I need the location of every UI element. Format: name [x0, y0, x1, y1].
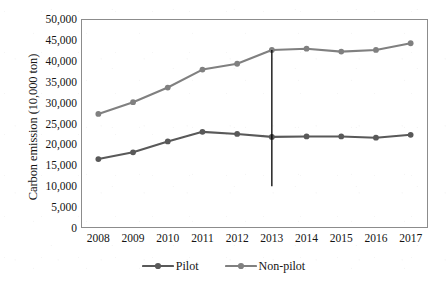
- data-point: [304, 46, 310, 52]
- y-axis-tick-labels: 05,00010,00015,00020,00025,00030,00035,0…: [0, 0, 77, 287]
- y-axis-tick-label: 20,000: [5, 138, 77, 150]
- legend-label: Pilot: [176, 259, 199, 273]
- legend-entry-non-pilot[interactable]: Non-pilot: [225, 259, 306, 273]
- series-line: [98, 132, 410, 159]
- data-point: [130, 99, 136, 105]
- y-axis-tick-label: 25,000: [5, 118, 77, 130]
- legend-entry-pilot[interactable]: Pilot: [142, 259, 199, 273]
- y-axis-tick-label: 15,000: [5, 159, 77, 171]
- y-axis-tick-label: 10,000: [5, 180, 77, 192]
- x-axis-tick-labels: 2008200920102011201220132014201520162017: [81, 231, 428, 249]
- data-point: [373, 47, 379, 53]
- series-line: [98, 43, 410, 114]
- data-point: [95, 156, 101, 162]
- data-point: [338, 134, 344, 140]
- y-axis-tick-label: 0: [5, 222, 77, 234]
- y-axis-tick-label: 45,000: [5, 34, 77, 46]
- data-point: [408, 132, 414, 138]
- data-point: [95, 111, 101, 117]
- y-axis-tick-label: 35,000: [5, 76, 77, 88]
- series-non-pilot: [95, 40, 413, 116]
- series-pilot: [95, 129, 413, 162]
- chart-figure: Carbon emission (10,000 ton) 05,00010,00…: [0, 0, 447, 287]
- data-point: [373, 135, 379, 141]
- chart-data-layer: [81, 19, 428, 228]
- y-axis-tick-label: 50,000: [5, 13, 77, 25]
- chart-legend: PilotNon-pilot: [0, 255, 447, 277]
- y-axis-tick-label: 40,000: [5, 55, 77, 67]
- series-group: [95, 40, 413, 162]
- data-point: [338, 49, 344, 55]
- legend-marker-icon: [225, 260, 257, 272]
- data-point: [234, 61, 240, 67]
- y-axis-tick-label: 5,000: [5, 201, 77, 213]
- legend-label: Non-pilot: [259, 259, 306, 273]
- y-axis-tick-label: 30,000: [5, 97, 77, 109]
- data-point: [234, 131, 240, 137]
- data-point: [130, 149, 136, 155]
- data-point: [165, 85, 171, 91]
- data-point: [165, 139, 171, 145]
- legend-marker-icon: [142, 260, 174, 272]
- x-axis-tick-label: 2017: [389, 231, 433, 246]
- data-point: [200, 129, 206, 135]
- data-point: [200, 67, 206, 73]
- data-point: [304, 134, 310, 140]
- data-point: [408, 40, 414, 46]
